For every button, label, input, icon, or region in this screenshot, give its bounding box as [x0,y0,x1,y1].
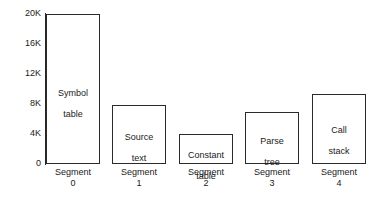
y-tick-label-4k: 4K [0,129,41,138]
y-tick-label-0: 0 [0,159,41,168]
x-label-segment-1-name: Segment [112,167,166,178]
x-label-segment-0-name: Segment [46,167,100,178]
y-tick-label-8k: 8K [0,99,41,108]
bar-label-segment-1: Source text [113,121,165,163]
x-label-segment-4: Segment 4 [312,167,366,189]
bar-label-segment-4-line1: Call [331,125,347,135]
y-tick-12k: 12K [0,69,41,78]
y-tick-label-16k: 16K [0,39,41,48]
bar-label-segment-0: Symbol table [47,77,99,119]
bar-label-segment-4: Call stack [313,114,365,156]
x-label-segment-1-index: 1 [112,178,166,189]
bar-segment-1: Source text [112,105,166,164]
x-label-segment-3-name: Segment [245,167,299,178]
x-label-segment-4-index: 4 [312,178,366,189]
bar-segment-4: Call stack [312,94,366,164]
y-tick-8k: 8K [0,99,41,108]
y-tick-0: 0 [0,159,41,168]
x-label-segment-0-index: 0 [46,178,100,189]
y-tick-4k: 4K [0,129,41,138]
bar-label-segment-0-line1: Symbol [58,88,88,98]
bar-label-segment-4-line2: stack [328,146,349,156]
bar-segment-3: Parse tree [245,112,299,164]
segmentation-memory-bar-chart: 20K 16K 12K 8K 4K 0 Symbol table Segment… [0,0,385,203]
y-tick-label-20k: 20K [0,9,41,18]
x-label-segment-4-name: Segment [312,167,366,178]
x-label-segment-2-index: 2 [179,178,233,189]
y-tick-16k: 16K [0,39,41,48]
x-label-segment-2: Segment 2 [179,167,233,189]
x-label-segment-0: Segment 0 [46,167,100,189]
y-tick-20k: 20K [0,9,41,18]
bar-label-segment-0-line2: table [63,109,83,119]
bar-label-segment-3-line2: tree [264,157,280,167]
bar-segment-2: Constant table [179,134,233,164]
bar-label-segment-1-line2: text [132,153,147,163]
x-label-segment-3-index: 3 [245,178,299,189]
bar-label-segment-3-line1: Parse [260,136,284,146]
bar-label-segment-3: Parse tree [246,125,298,167]
bar-segment-0: Symbol table [46,14,100,164]
bar-label-segment-2-line1: Constant [188,150,224,160]
y-tick-label-12k: 12K [0,69,41,78]
x-label-segment-1: Segment 1 [112,167,166,189]
bar-label-segment-1-line1: Source [125,132,154,142]
x-label-segment-2-name: Segment [179,167,233,178]
x-label-segment-3: Segment 3 [245,167,299,189]
